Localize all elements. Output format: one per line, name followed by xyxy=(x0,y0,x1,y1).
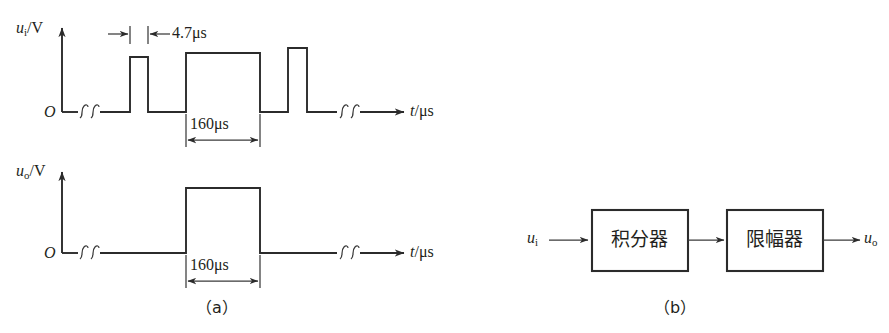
panel-a-caption: （a） xyxy=(196,300,238,316)
input-left-break-squiggle-2 xyxy=(91,105,99,118)
output-right-break-squiggle-2 xyxy=(351,246,359,259)
block-input-label: ui xyxy=(527,230,538,248)
figure-canvas xyxy=(0,0,889,333)
input-y-axis-label: ui/V xyxy=(16,20,43,38)
output-right-break-squiggle-1 xyxy=(340,246,348,259)
output-origin-label: O xyxy=(44,245,56,261)
output-left-break-squiggle-2 xyxy=(91,246,99,259)
input-right-break-squiggle-2 xyxy=(351,105,359,118)
output-waveform-plot xyxy=(62,172,404,288)
output-y-axis-label: uo/V xyxy=(16,163,45,181)
pulse-width-annotation: 4.7μs xyxy=(172,25,207,41)
input-origin-label: O xyxy=(44,104,56,120)
input-wide-pulse-annotation: 160μs xyxy=(190,116,229,132)
integrator-label: 积分器 xyxy=(611,230,668,249)
output-pulse xyxy=(100,188,337,253)
input-pulse-train xyxy=(100,48,337,112)
output-x-axis-label: t/μs xyxy=(410,244,434,260)
input-left-break-squiggle-1 xyxy=(80,105,88,118)
block-output-label: uo xyxy=(864,230,877,248)
input-x-axis-label: t/μs xyxy=(410,103,434,119)
output-left-break-squiggle-1 xyxy=(80,246,88,259)
block-diagram xyxy=(549,210,860,271)
output-wide-pulse-annotation: 160μs xyxy=(190,257,229,273)
figure-root: ui/V O t/μs 4.7μs 160μs uo/V O t/μs 160μ… xyxy=(0,0,889,333)
limiter-label: 限幅器 xyxy=(746,230,803,249)
input-right-break-squiggle-1 xyxy=(340,105,348,118)
input-waveform-plot xyxy=(62,26,404,147)
panel-b-caption: （b） xyxy=(654,300,696,316)
